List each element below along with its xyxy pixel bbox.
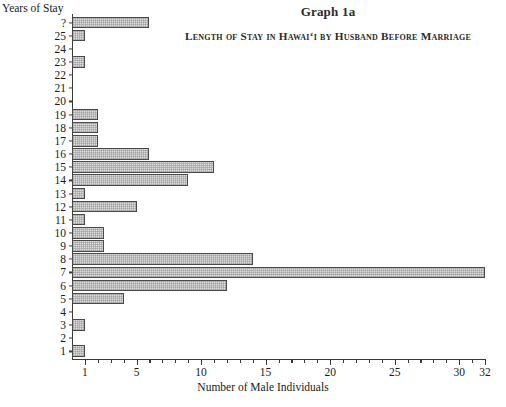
bar — [72, 30, 85, 42]
chart-row: 14 — [72, 174, 485, 187]
y-axis-tick-label: 14 — [55, 175, 67, 186]
bar — [72, 17, 149, 29]
y-axis-tick-label: 22 — [55, 70, 67, 81]
x-axis-tick-label: 10 — [195, 366, 207, 378]
bar — [72, 161, 214, 173]
chart-row: 10 — [72, 226, 485, 239]
y-axis-tick-label: 1 — [60, 346, 66, 357]
y-axis-tick-label: 4 — [60, 306, 66, 317]
y-axis-tick-label: 3 — [60, 320, 66, 331]
x-axis-tick-label: 25 — [389, 366, 401, 378]
chart-row: 12 — [72, 200, 485, 213]
bar — [72, 148, 149, 160]
chart-row: 23 — [72, 55, 485, 68]
x-axis-minor-tick — [214, 359, 215, 363]
x-axis-minor-tick — [304, 359, 305, 363]
bar — [72, 214, 85, 226]
y-axis-title: Years of Stay — [2, 2, 63, 14]
x-axis-tick-label: 32 — [479, 366, 491, 378]
x-axis-minor-tick — [317, 359, 318, 363]
x-axis-minor-tick — [175, 359, 176, 363]
x-axis-minor-tick — [188, 359, 189, 363]
bar — [72, 201, 137, 213]
x-axis-minor-tick — [408, 359, 409, 363]
bar — [72, 122, 98, 134]
y-axis-tick-label: 12 — [55, 201, 67, 212]
x-axis-minor-tick — [420, 359, 421, 363]
x-axis-minor-tick — [356, 359, 357, 363]
bar — [72, 174, 188, 186]
y-axis-tick-label: 23 — [55, 57, 67, 68]
y-axis-tick-label: 8 — [60, 254, 66, 265]
y-axis-tick-label: ? — [61, 17, 66, 28]
x-axis-tick-label: 20 — [324, 366, 336, 378]
x-axis-tick-label: 15 — [260, 366, 272, 378]
y-axis-tick-label: 13 — [55, 188, 67, 199]
y-axis-tick-label: 17 — [55, 135, 67, 146]
x-axis-minor-tick — [98, 359, 99, 363]
chart-row: 24 — [72, 42, 485, 55]
bar — [72, 109, 98, 121]
x-axis-minor-tick — [162, 359, 163, 363]
chart-row: 1 — [72, 345, 485, 358]
chart-row: 21 — [72, 82, 485, 95]
y-axis-tick-label: 19 — [55, 109, 67, 120]
x-axis-tick-label: 30 — [453, 366, 465, 378]
y-axis-tick-label: 10 — [55, 228, 67, 239]
x-axis-minor-tick — [433, 359, 434, 363]
x-axis-minor-tick — [111, 359, 112, 363]
x-axis-minor-tick — [343, 359, 344, 363]
x-axis-major-tick — [201, 359, 202, 365]
chart-row: 2 — [72, 332, 485, 345]
chart-row: 3 — [72, 319, 485, 332]
x-axis-minor-tick — [253, 359, 254, 363]
bar — [72, 319, 85, 331]
bar — [72, 253, 253, 265]
y-axis-tick-label: 2 — [60, 333, 66, 344]
y-axis-tick-label: 24 — [55, 43, 67, 54]
x-axis-major-tick — [485, 359, 486, 365]
chart-row: 8 — [72, 253, 485, 266]
y-axis-tick-label: 21 — [55, 83, 67, 94]
x-axis-major-tick — [459, 359, 460, 365]
chart-row: 5 — [72, 292, 485, 305]
y-axis-tick-label: 5 — [60, 293, 66, 304]
x-axis-tick-label: 5 — [134, 366, 140, 378]
chart-row: 16 — [72, 148, 485, 161]
chart-row: 18 — [72, 121, 485, 134]
x-axis-tick-label: 1 — [82, 366, 88, 378]
chart-row: 25 — [72, 29, 485, 42]
bar — [72, 267, 485, 279]
x-axis-major-tick — [395, 359, 396, 365]
x-axis-major-tick — [137, 359, 138, 365]
x-axis-major-tick — [266, 359, 267, 365]
x-axis-title-text: Number of Male Individuals — [177, 381, 328, 393]
y-axis-tick-label: 25 — [55, 30, 67, 41]
bar — [72, 240, 104, 252]
y-axis-tick-label: 11 — [55, 214, 66, 225]
y-axis-tick — [69, 48, 72, 49]
chart-container: Graph 1a Length of Stay in Hawaiʻi by Hu… — [0, 0, 506, 407]
x-axis-minor-tick — [446, 359, 447, 363]
x-axis-major-tick — [330, 359, 331, 365]
bar — [72, 345, 85, 357]
bar — [72, 135, 98, 147]
y-axis-tick — [69, 75, 72, 76]
x-axis-minor-tick — [472, 359, 473, 363]
chart-row: 7 — [72, 266, 485, 279]
chart-row: ? — [72, 16, 485, 29]
y-axis-tick — [69, 338, 72, 339]
plot-area: ?252423222120191817161514131211109876543… — [72, 16, 485, 358]
bar — [72, 56, 85, 68]
chart-row: 9 — [72, 240, 485, 253]
chart-row: 22 — [72, 69, 485, 82]
x-axis-minor-tick — [240, 359, 241, 363]
y-axis-tick-label: 6 — [60, 280, 66, 291]
y-axis-tick — [69, 101, 72, 102]
x-axis-minor-tick — [124, 359, 125, 363]
bar — [72, 227, 104, 239]
chart-row: 19 — [72, 108, 485, 121]
y-axis-tick-label: 7 — [60, 267, 66, 278]
chart-row: 4 — [72, 305, 485, 318]
bar — [72, 188, 85, 200]
